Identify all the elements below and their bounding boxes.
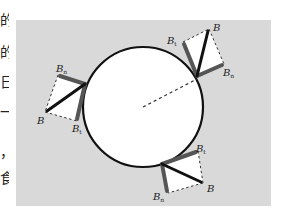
field-diagram: Bn B Bt Bt B Bn Bt B Bn [0, 0, 287, 221]
label-bt-left: Bt [71, 123, 82, 135]
label-bn-bottomright: Bn [152, 191, 164, 203]
label-b-topright: B [212, 22, 220, 33]
label-bn-left: Bn [55, 63, 67, 75]
label-bt-topright: Bt [166, 35, 177, 47]
label-bn-topright: Bn [222, 67, 234, 79]
label-b-left: B [36, 115, 44, 126]
label-b-bottomright: B [206, 183, 214, 194]
label-bt-bottomright: Bt [195, 143, 206, 155]
